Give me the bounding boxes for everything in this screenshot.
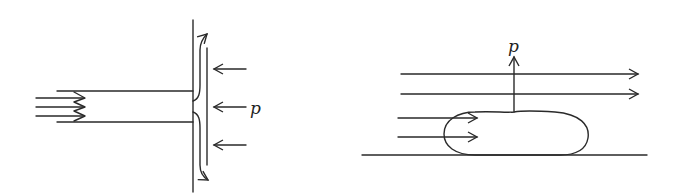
upward-deflected-flow-arrow xyxy=(193,34,207,101)
pressure-label-right: p xyxy=(508,36,519,56)
left-panel-jet-on-plate: p xyxy=(36,20,261,192)
right-panel-flow-over-body: p xyxy=(362,36,647,155)
pressure-arrows-left xyxy=(214,69,246,145)
pressure-label-left: p xyxy=(250,98,261,118)
figure-canvas: p p xyxy=(0,0,674,196)
incoming-flow-arrows xyxy=(36,92,85,121)
downward-deflected-flow-arrow xyxy=(193,112,208,180)
